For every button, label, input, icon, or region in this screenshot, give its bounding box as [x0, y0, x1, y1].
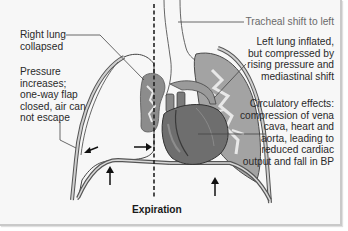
right-diaphragm: [78, 160, 170, 198]
circulatory-effects-label: Circulatory effects: compression of vena…: [240, 98, 334, 168]
left-diaphragm-arrow: [211, 177, 219, 196]
pleural-pressure-arrow: [84, 147, 98, 153]
right-diaphragm-arrow: [106, 166, 114, 185]
trachea: [164, 0, 171, 96]
mediastinal-shift-arrow: [134, 143, 152, 151]
tracheal-shift-label: Tracheal shift to left: [245, 16, 334, 28]
pressure-increases-label: Pressure increases; one-way flap closed,…: [20, 66, 86, 124]
left-lung-inflated-label: Left lung inflated, but compressed by ri…: [247, 36, 334, 82]
collapsed-right-lung: [140, 73, 165, 132]
right-lung-collapsed-label: Right lung collapsed: [20, 29, 66, 52]
pressure-leader: [60, 122, 76, 148]
expiration-label: Expiration: [132, 204, 182, 216]
